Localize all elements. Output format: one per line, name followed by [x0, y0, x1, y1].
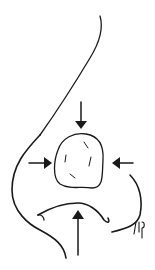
arrow-left: [29, 157, 52, 169]
artist-signature: [134, 222, 144, 238]
arrow-top: [75, 102, 87, 129]
left-ala-outline: [12, 135, 66, 258]
tip-graft: [55, 134, 104, 188]
arrow-bottom: [72, 210, 84, 255]
nasal-dorsum-line: [40, 16, 101, 135]
left-nostril-curl: [38, 215, 44, 220]
graft-texture: [65, 142, 91, 178]
arrow-right: [112, 157, 133, 169]
nostril-arch: [38, 203, 109, 222]
nose-tip-graft-illustration: [0, 0, 155, 270]
right-ala-outline: [112, 175, 141, 232]
